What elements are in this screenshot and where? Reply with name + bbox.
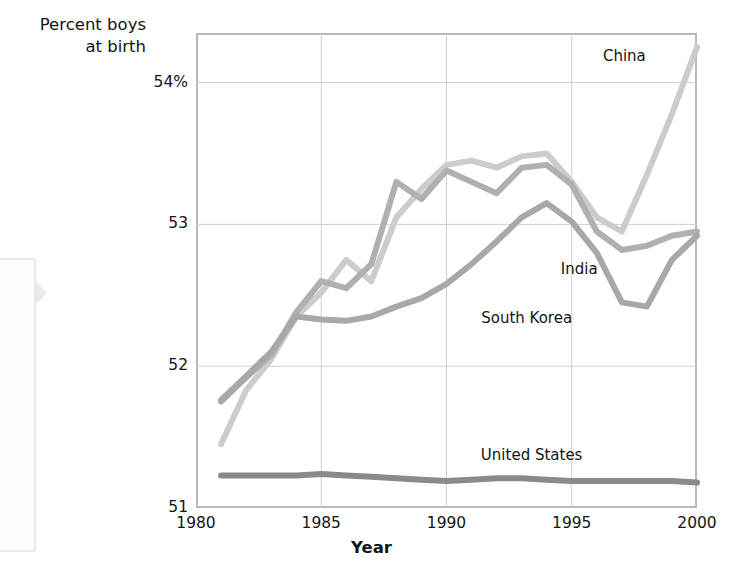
y-tick-label: 53 [142,214,188,232]
y-tick-label: 54% [142,73,188,91]
x-tick-label: 1990 [402,514,492,532]
decorative-callout-shape [0,258,36,552]
x-axis-title: Year [0,538,743,557]
gridlines [196,33,697,508]
series-line-united-states [221,474,697,483]
series-line-south-korea [221,203,697,400]
series-line-china [221,47,697,444]
x-tick-label: 1985 [276,514,366,532]
x-tick-label: 2000 [652,514,742,532]
series-label-united-states: United States [481,446,583,464]
chart-figure: Percent boys at birth 51525354% 19801985… [0,0,743,566]
y-axis-title: Percent boys at birth [6,14,146,58]
x-tick-label: 1980 [151,514,241,532]
plot-area [196,33,697,508]
series-lines [221,47,697,482]
y-tick-label: 52 [142,356,188,374]
series-label-south-korea: South Korea [481,309,572,327]
series-label-china: China [603,47,646,65]
x-tick-label: 1995 [527,514,617,532]
series-label-india: India [561,260,598,278]
